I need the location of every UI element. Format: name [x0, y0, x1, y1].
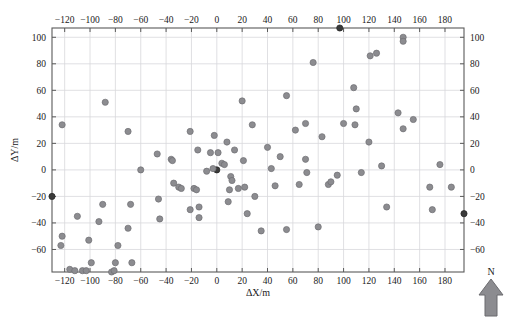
data-point — [315, 224, 321, 230]
data-point — [129, 260, 135, 266]
data-point — [384, 204, 390, 210]
data-point — [224, 139, 230, 145]
x-tick-label-top: −20 — [184, 15, 199, 25]
data-point — [283, 226, 289, 232]
data-point — [283, 93, 289, 99]
data-point — [277, 154, 283, 160]
data-point — [187, 207, 193, 213]
x-tick-label: −60 — [133, 276, 148, 286]
data-point — [264, 144, 270, 150]
data-point — [111, 268, 117, 274]
data-point — [59, 233, 65, 239]
x-tick-label-top: 80 — [313, 15, 323, 25]
data-point — [59, 122, 65, 128]
x-tick-label-top: −80 — [108, 15, 123, 25]
data-point — [178, 185, 184, 191]
data-point — [239, 98, 245, 104]
data-point — [157, 216, 163, 222]
x-tick-label: −80 — [108, 276, 123, 286]
data-point — [229, 177, 235, 183]
data-point — [296, 181, 302, 187]
data-point — [366, 139, 372, 145]
data-point — [240, 158, 246, 164]
y-tick-label-right: 20 — [470, 139, 480, 149]
y-tick-label: 40 — [37, 112, 47, 122]
x-tick-label-top: 100 — [336, 15, 351, 25]
data-point — [215, 150, 221, 156]
x-tick-label-top: 140 — [387, 15, 402, 25]
x-tick-label-top: 160 — [413, 15, 428, 25]
y-tick-label: 20 — [37, 139, 47, 149]
data-point — [102, 99, 108, 105]
x-tick-label: 180 — [438, 276, 453, 286]
x-tick-label: 80 — [313, 276, 323, 286]
data-point — [204, 168, 210, 174]
data-point — [302, 120, 308, 126]
x-tick-label: 100 — [336, 276, 351, 286]
data-point — [125, 128, 131, 134]
data-point — [304, 169, 310, 175]
north-label: N — [487, 266, 494, 277]
data-point — [125, 225, 131, 231]
data-point — [302, 156, 308, 162]
y-tick-label: 80 — [37, 59, 47, 69]
data-point — [242, 184, 248, 190]
y-tick-label: 0 — [41, 165, 46, 175]
data-point — [193, 187, 199, 193]
data-point — [328, 179, 334, 185]
data-point — [231, 147, 237, 153]
data-point — [169, 158, 175, 164]
y-tick-label-right: −40 — [470, 218, 485, 228]
x-tick-label-top: 0 — [214, 15, 219, 25]
data-point — [310, 59, 316, 65]
data-point — [58, 242, 64, 248]
scatter-plot-svg: −120−120−100−100−80−80−60−60−40−40−20−20… — [0, 0, 516, 320]
data-point — [429, 207, 435, 213]
data-point — [72, 268, 78, 274]
data-point — [86, 237, 92, 243]
data-point — [358, 169, 364, 175]
x-tick-label: −100 — [80, 276, 100, 286]
y-tick-label-right: 60 — [470, 86, 480, 96]
data-point — [352, 122, 358, 128]
data-point — [258, 228, 264, 234]
data-point — [207, 150, 213, 156]
x-tick-label: 20 — [237, 276, 247, 286]
data-point — [235, 185, 241, 191]
data-point — [268, 165, 274, 171]
y-tick-label: −60 — [31, 245, 46, 255]
data-point — [187, 128, 193, 134]
x-tick-label: 0 — [214, 276, 219, 286]
data-point — [334, 172, 340, 178]
y-tick-label: −40 — [31, 218, 46, 228]
x-tick-label-top: 60 — [288, 15, 298, 25]
x-tick-label-top: 40 — [263, 15, 273, 25]
data-point — [244, 211, 250, 217]
x-tick-label: −20 — [184, 276, 199, 286]
scatter-plot-figure: −120−120−100−100−80−80−60−60−40−40−20−20… — [0, 0, 516, 320]
data-point — [211, 132, 217, 138]
y-tick-label-right: −60 — [470, 245, 485, 255]
data-point-highlight — [49, 193, 55, 199]
y-tick-label: 60 — [37, 86, 47, 96]
y-axis-title: ΔY/m — [9, 138, 20, 162]
data-point — [74, 213, 80, 219]
data-point — [100, 201, 106, 207]
y-tick-label-right: 100 — [470, 33, 485, 43]
data-point — [249, 122, 255, 128]
data-point — [154, 151, 160, 157]
data-point-highlight — [461, 211, 467, 217]
data-point — [340, 120, 346, 126]
data-point — [96, 219, 102, 225]
data-point — [252, 193, 258, 199]
y-tick-label-right: 0 — [470, 165, 475, 175]
data-point — [351, 85, 357, 91]
x-tick-label-top: −40 — [159, 15, 174, 25]
y-tick-label-right: 80 — [470, 59, 480, 69]
x-tick-label: 120 — [362, 276, 377, 286]
data-point — [112, 260, 118, 266]
data-point — [437, 161, 443, 167]
data-point — [210, 165, 216, 171]
data-point — [155, 196, 161, 202]
x-tick-label-top: 20 — [237, 15, 247, 25]
